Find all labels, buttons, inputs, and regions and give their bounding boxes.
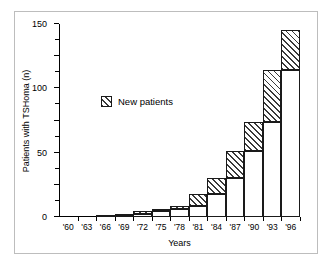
y-tick-label: 0: [42, 213, 47, 222]
bar-segment-new-patients: [96, 215, 115, 217]
x-tick: [152, 217, 153, 221]
figure-frame: Patients with TSHoma (n) 050100150200250…: [14, 11, 318, 254]
x-tick: [263, 217, 264, 221]
bar-segment-new-patients: [152, 209, 171, 211]
bar-69: [115, 214, 134, 217]
legend-label-new-patients: New patients: [118, 96, 173, 107]
x-tick-label: '63: [81, 223, 92, 232]
bar-96: [281, 30, 300, 217]
x-tick: [207, 217, 208, 221]
bar-segment-new-patients: [189, 194, 208, 206]
bar-segment-new-patients: [207, 178, 226, 194]
y-tick-label: 50: [37, 148, 47, 157]
bar-segment-cumulative: [170, 209, 189, 217]
x-tick: [78, 217, 79, 221]
bar-segment-new-patients: [263, 70, 282, 123]
bar-93: [263, 70, 282, 217]
bar-segment-cumulative: [244, 151, 263, 217]
y-tick-major: 100: [54, 152, 59, 153]
x-tick-label: '72: [137, 223, 148, 232]
x-tick-label: '84: [211, 223, 222, 232]
y-tick-minor: [55, 71, 59, 72]
y-tick-major: 200: [54, 87, 59, 88]
bar-segment-cumulative: [207, 194, 226, 217]
x-tick: [115, 217, 116, 221]
bar-segment-new-patients: [244, 122, 263, 151]
plot-area: 050100150200250300 '60'63'66'69'72'75'78…: [59, 24, 300, 217]
x-tick: [244, 217, 245, 221]
bar-84: [207, 178, 226, 217]
bar-81: [189, 194, 208, 217]
bar-segment-new-patients: [226, 151, 245, 177]
y-tick-minor: [55, 136, 59, 137]
y-tick-minor: [55, 39, 59, 40]
bar-segment-cumulative: [133, 214, 152, 217]
x-tick-label: '96: [285, 223, 296, 232]
y-axis-label-container: Patients with TSHoma (n): [24, 24, 38, 217]
x-tick: [281, 217, 282, 221]
y-tick-major: 50: [54, 184, 59, 185]
bar-segment-cumulative: [189, 206, 208, 217]
x-tick: [170, 217, 171, 221]
x-tick-label: '93: [267, 223, 278, 232]
y-tick-label: 150: [32, 20, 47, 29]
bar-78: [170, 206, 189, 217]
y-axis-label: Patients with TSHoma (n): [21, 69, 31, 171]
bar-segment-new-patients: [115, 214, 134, 216]
y-tick-minor: [55, 103, 59, 104]
x-tick-label: '81: [192, 223, 203, 232]
y-tick-minor: [55, 200, 59, 201]
x-tick: [133, 217, 134, 221]
bar-segment-new-patients: [170, 206, 189, 209]
legend-swatch-new-patients-icon: [101, 96, 112, 107]
bar-segment-cumulative: [281, 70, 300, 217]
bar-segment-cumulative: [152, 211, 171, 217]
bar-87: [226, 151, 245, 217]
y-tick-label: 100: [32, 84, 47, 93]
x-axis-label: Years: [59, 238, 300, 248]
bar-75: [152, 209, 171, 217]
bar-segment-new-patients: [133, 211, 152, 215]
y-tick-major: 150: [54, 120, 59, 121]
bar-segment-cumulative: [226, 178, 245, 217]
bar-segment-cumulative: [263, 122, 282, 217]
x-tick: [226, 217, 227, 221]
x-tick-label: '69: [118, 223, 129, 232]
y-tick-major: 0: [54, 216, 59, 217]
x-tick-label: '87: [230, 223, 241, 232]
x-tick: [189, 217, 190, 221]
legend: New patients: [101, 96, 173, 107]
x-tick-label: '90: [248, 223, 259, 232]
x-tick: [96, 217, 97, 221]
bar-72: [133, 211, 152, 217]
bar-66: [96, 216, 115, 217]
x-tick-label: '60: [63, 223, 74, 232]
x-tick-label: '66: [100, 223, 111, 232]
x-tick-label: '75: [155, 223, 166, 232]
y-tick-minor: [55, 168, 59, 169]
y-tick-major: 250: [54, 55, 59, 56]
y-axis-line: [59, 24, 60, 217]
x-tick-label: '78: [174, 223, 185, 232]
y-tick-major: 300: [54, 23, 59, 24]
bar-90: [244, 122, 263, 217]
bar-segment-new-patients: [281, 30, 300, 69]
x-tick: [300, 217, 301, 221]
